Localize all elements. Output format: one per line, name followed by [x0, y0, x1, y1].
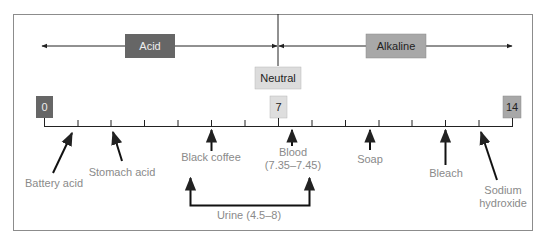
black-coffee-label: Black coffee	[181, 151, 241, 163]
alkaline-label-box: Alkaline	[366, 34, 426, 58]
marker-7: 7	[270, 96, 287, 118]
battery-acid-label: Battery acid	[25, 177, 83, 189]
neutral-label-box: Neutral	[255, 67, 301, 89]
alkaline-label: Alkaline	[377, 40, 416, 52]
marker-14: 14	[503, 96, 521, 118]
acid-label: Acid	[139, 40, 160, 52]
marker-14-label: 14	[506, 101, 518, 113]
diagram-frame	[14, 15, 533, 231]
bleach-label: Bleach	[429, 167, 463, 179]
marker-0: 0	[36, 96, 53, 118]
neutral-label: Neutral	[260, 72, 295, 84]
marker-0-label: 0	[41, 101, 47, 113]
marker-7-label: 7	[275, 101, 281, 113]
acid-label-box: Acid	[125, 34, 175, 58]
sodium-hydroxide-label-line2: hydroxide	[479, 197, 527, 209]
soap-label: Soap	[357, 153, 383, 165]
stomach-acid-label: Stomach acid	[89, 166, 156, 178]
urine-range-label: Urine (4.5–8)	[217, 209, 281, 221]
ph-scale-diagram: Acid Alkaline Neutral 0 7 14	[0, 0, 548, 242]
blood-label-line2: (7.35–7.45)	[265, 159, 321, 171]
blood-label-line1: Blood	[279, 146, 307, 158]
sodium-hydroxide-label-line1: Sodium	[484, 184, 521, 196]
